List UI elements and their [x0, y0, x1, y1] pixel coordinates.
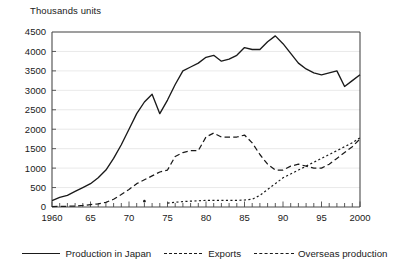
x-axis-tick-label: 90	[278, 212, 289, 223]
legend-label-production: Production in Japan	[66, 248, 152, 259]
x-axis-tick-label: 80	[201, 212, 212, 223]
y-axis-tick-label: 1500	[25, 143, 46, 154]
legend-label-exports: Exports	[208, 248, 241, 259]
y-axis-tick-label: 2500	[25, 104, 46, 115]
series-line-production	[52, 36, 360, 201]
y-axis-tick-label: 0	[41, 201, 46, 212]
x-axis-tick-label: 2000	[349, 212, 370, 223]
y-axis-tick-label: 4000	[25, 46, 46, 57]
x-axis-tick-label: 95	[316, 212, 327, 223]
chart-legend: Production in Japan Exports Overseas pro…	[0, 242, 409, 264]
series-line-overseas	[168, 138, 361, 203]
legend-swatch-dotted-line-icon	[254, 249, 292, 258]
x-axis-tick-label: 70	[124, 212, 135, 223]
x-axis-tick-label: 75	[162, 212, 173, 223]
legend-item-production: Production in Japan	[22, 248, 152, 259]
y-axis-tick-label: 2000	[25, 124, 46, 135]
legend-swatch-dashed-line-icon	[164, 249, 202, 258]
chart-container: Thousands units 050010001500200025003000…	[0, 0, 409, 273]
y-axis-tick-label: 1000	[25, 163, 46, 174]
x-axis-tick-label: 65	[85, 212, 96, 223]
line-chart-svg: 0500100015002000250030003500400045001960…	[0, 0, 409, 230]
y-axis-tick-label: 4500	[25, 26, 46, 37]
y-axis-tick-label: 3000	[25, 85, 46, 96]
series-data-point	[143, 200, 146, 203]
y-axis-tick-label: 500	[30, 182, 46, 193]
y-axis-tick-label: 3500	[25, 65, 46, 76]
legend-label-overseas: Overseas production	[298, 248, 387, 259]
plot-area: 0500100015002000250030003500400045001960…	[0, 0, 409, 230]
x-axis-tick-label: 1960	[41, 212, 62, 223]
legend-item-overseas: Overseas production	[254, 248, 387, 259]
legend-item-exports: Exports	[164, 248, 241, 259]
legend-swatch-solid-line-icon	[22, 249, 60, 258]
series-line-exports	[52, 133, 360, 206]
x-axis-tick-label: 85	[239, 212, 250, 223]
